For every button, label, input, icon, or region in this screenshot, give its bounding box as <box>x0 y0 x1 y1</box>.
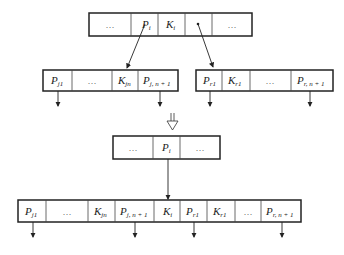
merged-node: Pj1 … Kjn Pj, n + 1 Ki Pr1 Kr1 … Pr, n +… <box>18 200 301 222</box>
top-cell-0: … <box>106 20 115 30</box>
parent-cell-0: … <box>129 143 138 153</box>
merged-cell-7: … <box>244 207 253 217</box>
left-cell-1: … <box>88 76 97 86</box>
merged-cell-3: Pj, n + 1 <box>119 205 147 219</box>
pointer-arrow-left <box>127 24 145 68</box>
b-tree-diagram: … Pi Ki … Pj1 … Kjn Pj, n + 1 Pr1 Kr1 … … <box>0 0 344 255</box>
top-cell-2: Ki <box>165 18 175 32</box>
right-cell-0: Pr1 <box>202 74 216 88</box>
parent-after-node: … Pi … <box>113 136 220 159</box>
right-child-node: Pr1 Kr1 … Pr, n + 1 <box>196 70 333 91</box>
left-cell-0: Pj1 <box>50 74 63 88</box>
top-node: … Pi Ki … <box>89 13 252 36</box>
merged-cell-6: Kr1 <box>212 205 227 219</box>
left-cell-3: Pj, n + 1 <box>142 74 170 88</box>
parent-cell-1: Pi <box>161 141 171 155</box>
merged-cell-1: … <box>63 207 72 217</box>
right-cell-2: … <box>266 76 275 86</box>
merged-cell-2: Kjn <box>93 205 107 219</box>
right-cell-1: Kr1 <box>227 74 242 88</box>
top-cell-4: … <box>228 20 237 30</box>
merged-cell-8: Pr, n + 1 <box>265 205 293 219</box>
left-child-node: Pj1 … Kjn Pj, n + 1 <box>43 70 178 91</box>
transition-arrow-icon <box>167 113 178 130</box>
merged-cell-0: Pj1 <box>24 205 37 219</box>
parent-cell-2: … <box>196 143 205 153</box>
right-cell-3: Pr, n + 1 <box>296 74 324 88</box>
merged-cell-4: Ki <box>162 205 172 219</box>
merged-cell-5: Pr1 <box>185 205 199 219</box>
left-cell-2: Kjn <box>117 74 131 88</box>
pointer-arrow-right <box>198 24 213 67</box>
